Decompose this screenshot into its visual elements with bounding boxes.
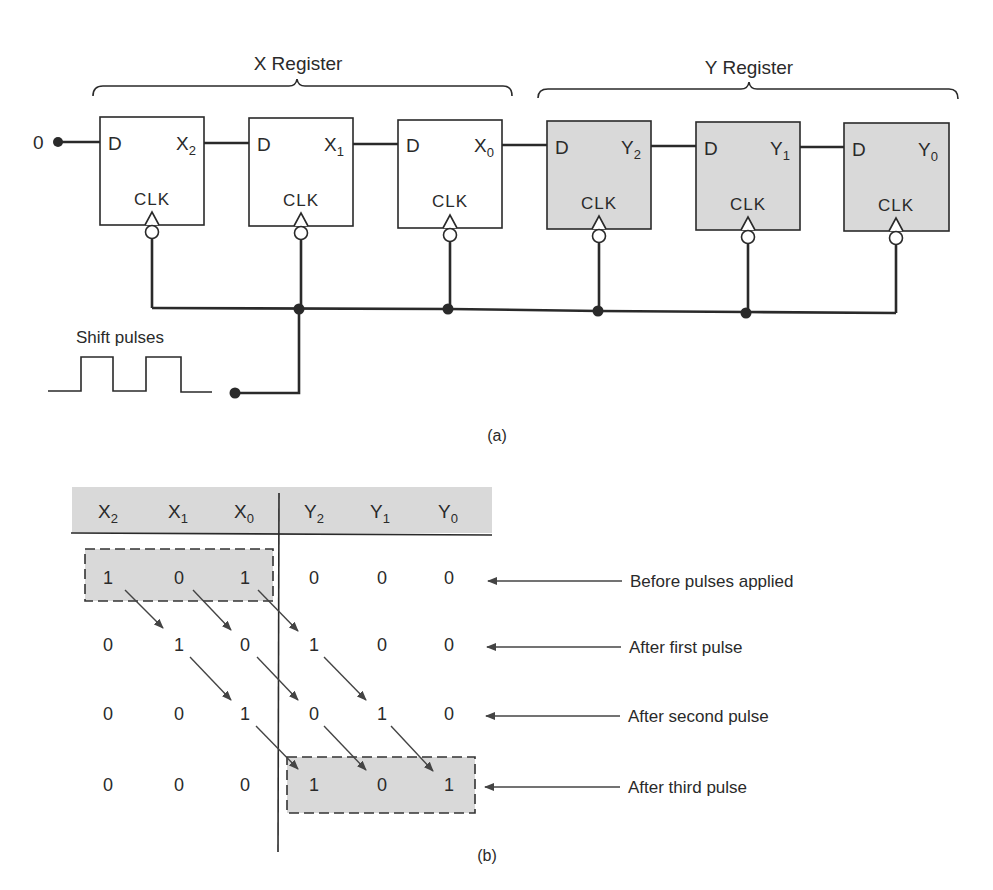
svg-text:0: 0 <box>174 775 184 795</box>
svg-text:0: 0 <box>309 704 319 724</box>
clock-terminal-icon <box>230 388 241 399</box>
svg-text:D: D <box>406 135 420 156</box>
shift-pulses-waveform-icon: Shift pulses <box>48 328 212 392</box>
y-register-title: Y Register <box>705 57 794 78</box>
annotation-first: After first pulse <box>629 638 742 657</box>
svg-text:1: 1 <box>444 775 454 795</box>
svg-text:0: 0 <box>377 568 387 588</box>
svg-text:CLK: CLK <box>581 194 617 213</box>
x-register-title: X Register <box>254 53 343 74</box>
svg-text:D: D <box>852 139 866 160</box>
svg-text:D: D <box>108 133 122 154</box>
shift-pulses-label: Shift pulses <box>76 328 164 347</box>
junction-dot-icon <box>443 304 454 315</box>
inversion-bubble-icon <box>890 232 903 245</box>
svg-text:1: 1 <box>240 568 250 588</box>
shift-register-figure: X Register Y Register 0 D X2 CLK D X1 CL… <box>0 0 993 890</box>
svg-text:D: D <box>555 137 569 158</box>
svg-text:CLK: CLK <box>730 195 766 214</box>
svg-text:CLK: CLK <box>134 190 170 209</box>
junction-dot-icon <box>741 308 752 319</box>
svg-text:0: 0 <box>103 635 113 655</box>
clock-bus <box>152 239 896 399</box>
svg-text:0: 0 <box>309 568 319 588</box>
state-table: X2 X1 X0 Y2 Y1 Y0 1 0 1 0 0 0 0 1 0 1 0 … <box>71 487 492 852</box>
svg-text:CLK: CLK <box>432 192 468 211</box>
annotation-second: After second pulse <box>628 707 769 726</box>
svg-text:1: 1 <box>240 704 250 724</box>
svg-text:0: 0 <box>103 775 113 795</box>
flipflop-y2: D Y2 CLK <box>547 121 651 229</box>
svg-text:1: 1 <box>309 775 319 795</box>
svg-text:1: 1 <box>103 568 113 588</box>
y-register-brace: Y Register <box>538 57 958 99</box>
svg-text:0: 0 <box>377 775 387 795</box>
flipflop-x1: D X1 CLK <box>249 118 353 226</box>
caption-a: (a) <box>487 427 507 444</box>
caption-b: (b) <box>477 847 497 864</box>
annotation-before: Before pulses applied <box>630 572 794 591</box>
inversion-bubble-icon <box>742 231 755 244</box>
svg-text:0: 0 <box>444 635 454 655</box>
inversion-bubble-icon <box>295 227 308 240</box>
svg-text:D: D <box>257 134 271 155</box>
svg-text:CLK: CLK <box>878 196 914 215</box>
svg-text:0: 0 <box>174 568 184 588</box>
flipflop-x2: D X2 CLK <box>100 117 204 225</box>
flipflop-y1: D Y1 CLK <box>696 122 800 230</box>
svg-text:0: 0 <box>240 635 250 655</box>
svg-text:0: 0 <box>444 704 454 724</box>
inversion-bubble-icon <box>146 226 159 239</box>
junction-dot-icon <box>593 306 604 317</box>
inversion-bubble-icon <box>593 230 606 243</box>
svg-text:0: 0 <box>377 635 387 655</box>
svg-text:D: D <box>704 138 718 159</box>
row-annotations: Before pulses applied After first pulse … <box>485 572 794 797</box>
svg-text:0: 0 <box>444 568 454 588</box>
x-register-brace: X Register <box>93 53 512 96</box>
inversion-bubble-icon <box>444 229 457 242</box>
svg-text:1: 1 <box>377 704 387 724</box>
svg-text:0: 0 <box>103 704 113 724</box>
svg-text:CLK: CLK <box>283 191 319 210</box>
svg-text:0: 0 <box>240 775 250 795</box>
svg-text:1: 1 <box>309 635 319 655</box>
svg-text:0: 0 <box>174 704 184 724</box>
serial-input-value: 0 <box>33 132 44 153</box>
svg-text:1: 1 <box>174 635 184 655</box>
flipflop-x0: D X0 CLK <box>398 120 502 228</box>
annotation-third: After third pulse <box>628 778 747 797</box>
flipflop-y0: D Y0 CLK <box>844 123 949 231</box>
